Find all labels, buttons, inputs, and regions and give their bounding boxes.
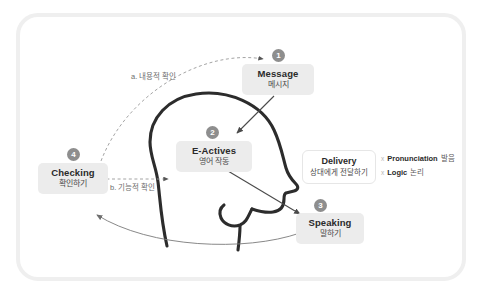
delivery-bullet-list: x Pronunciation 발음 x Logic 논리 [381, 152, 479, 180]
bullet-logic-en: Logic [387, 168, 407, 177]
node-eactives-ko: 영어 작동 [184, 157, 244, 166]
delivery-title-en: Delivery [307, 156, 371, 167]
badge-eactives: 2 [206, 126, 219, 139]
node-speaking-ko: 말하기 [304, 229, 356, 238]
node-message-en: Message [250, 68, 306, 79]
badge-checking: 4 [67, 148, 80, 161]
node-speaking-en: Speaking [304, 217, 356, 228]
node-message-ko: 메시지 [250, 80, 306, 89]
node-eactives-en: E-Actives [184, 145, 244, 156]
bullet-logic-ko: 논리 [410, 166, 424, 177]
diagram-canvas: 1 Message 메시지 2 E-Actives 영어 작동 3 Speaki… [0, 0, 482, 294]
node-eactives[interactable]: E-Actives 영어 작동 [176, 141, 252, 172]
annotation-b: b. 기능적 확인 [110, 181, 155, 192]
delivery-card[interactable]: Delivery 상대에게 전달하기 [302, 150, 376, 184]
node-checking[interactable]: Checking 확인하기 [38, 163, 108, 194]
annotation-a: a. 내용적 확인 [131, 70, 176, 81]
bullet-mark-icon: x [381, 156, 384, 163]
bullet-pronunciation-en: Pronunciation [387, 154, 437, 163]
bullet-mark-icon: x [381, 170, 384, 177]
badge-message: 1 [272, 49, 285, 62]
delivery-title-ko: 상대에게 전달하기 [307, 168, 371, 177]
node-checking-en: Checking [46, 167, 100, 178]
badge-speaking: 3 [314, 199, 327, 212]
bullet-item-pronunciation: x Pronunciation 발음 [381, 152, 479, 163]
arrow-speaking-to-checking [97, 215, 300, 244]
node-message[interactable]: Message 메시지 [242, 64, 314, 95]
bullet-pronunciation-ko: 발음 [441, 152, 455, 163]
node-speaking[interactable]: Speaking 말하기 [296, 213, 364, 244]
node-checking-ko: 확인하기 [46, 179, 100, 188]
bullet-item-logic: x Logic 논리 [381, 166, 479, 177]
